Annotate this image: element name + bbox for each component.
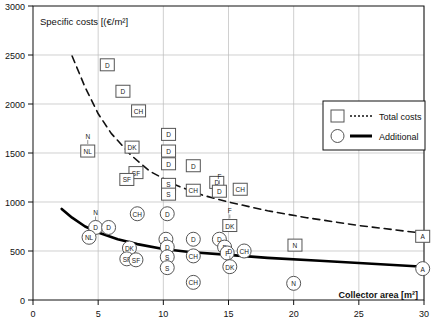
data-point-square[interactable]: NNL <box>81 133 95 158</box>
data-point-circle[interactable]: CH <box>186 249 200 263</box>
data-point-label: S <box>165 254 170 261</box>
data-point-circle[interactable]: CH <box>186 275 200 289</box>
data-point-label: S <box>166 181 171 188</box>
callout-label: D <box>227 248 232 255</box>
callout-label: N <box>85 133 90 140</box>
data-point-label: CH <box>239 248 249 255</box>
y-axis-tick-label: 0 <box>20 296 25 306</box>
chart-container: 051015202530050010001500200025003000 DDC… <box>0 0 445 332</box>
legend-entry-label: Additional <box>379 132 419 142</box>
x-axis-tick-label: 25 <box>354 309 364 319</box>
data-point-circle[interactable]: SF <box>129 253 143 267</box>
data-point-label: D <box>166 131 171 138</box>
data-point-label: D <box>191 236 196 243</box>
data-point-square[interactable]: FDK <box>223 207 237 232</box>
data-point-label: SF <box>132 257 140 264</box>
data-point-label: CH <box>236 186 246 193</box>
callout-label: F <box>228 207 232 214</box>
y-axis-tick-label: 500 <box>10 247 25 257</box>
x-axis-tick-label: 15 <box>223 309 233 319</box>
data-point-label: CH <box>189 187 199 194</box>
data-point-label: CH <box>134 108 144 115</box>
data-point-label: D <box>93 224 98 231</box>
data-point-label: D <box>106 224 111 231</box>
data-point-square[interactable]: A <box>416 230 430 242</box>
data-point-square[interactable]: N <box>288 239 302 251</box>
data-point-label: DK <box>225 223 235 230</box>
data-point-label: DK <box>225 264 235 271</box>
data-point-label: DK <box>128 144 138 151</box>
data-point-square[interactable]: S <box>162 188 176 200</box>
data-point-label: NL <box>84 148 93 155</box>
y-axis-tick-label: 2500 <box>5 51 25 61</box>
data-point-label: D <box>217 188 222 195</box>
callout-label: F <box>217 173 221 180</box>
x-axis-title: Collector area [m²] <box>338 290 418 300</box>
y-axis-title: Specific costs [(€/m²] <box>40 16 128 27</box>
data-point-circle[interactable]: NL <box>82 230 96 244</box>
data-point-label: CH <box>189 279 199 286</box>
data-point-label: CH <box>189 253 199 260</box>
data-point-square[interactable]: D <box>162 145 176 157</box>
callout-label: N <box>93 209 98 216</box>
x-axis-tick-label: 20 <box>289 309 299 319</box>
legend-square-marker <box>331 110 344 122</box>
data-point-label: N <box>293 242 298 249</box>
x-axis-tick-label: 30 <box>419 309 429 319</box>
data-point-label: D <box>166 148 171 155</box>
x-axis-tick-label: 0 <box>30 309 35 319</box>
axis-tick-labels: 051015202530050010001500200025003000 <box>5 2 429 320</box>
legend-circle-marker <box>331 130 344 143</box>
data-point-circle[interactable]: CH <box>130 207 144 221</box>
data-point-label: SF <box>123 176 131 183</box>
data-point-square[interactable]: D <box>186 160 200 172</box>
data-point-square[interactable]: SF <box>120 173 134 185</box>
data-point-circle[interactable]: A <box>416 262 430 276</box>
data-point-label: D <box>165 211 170 218</box>
data-point-label: CH <box>133 211 143 218</box>
scatter-chart: 051015202530050010001500200025003000 DDC… <box>0 0 445 332</box>
data-point-label: A <box>421 266 426 273</box>
x-axis-tick-label: 5 <box>96 309 101 319</box>
data-point-square[interactable]: D <box>162 128 176 140</box>
y-axis-tick-label: 2000 <box>5 100 25 110</box>
data-point-label: D <box>105 62 110 69</box>
data-point-label: S <box>165 265 170 272</box>
data-point-circle[interactable]: D <box>186 232 200 246</box>
data-point-label: N <box>291 280 296 287</box>
data-point-label: D <box>191 163 196 170</box>
legend: Total costsAdditional <box>323 101 425 150</box>
x-axis-tick-label: 10 <box>158 309 168 319</box>
data-point-label: D <box>166 161 171 168</box>
data-point-circle[interactable]: CH <box>237 244 251 258</box>
data-point-label: A <box>421 233 426 240</box>
legend-entry-label: Total costs <box>379 112 422 122</box>
data-point-label: D <box>121 88 126 95</box>
y-axis-tick-label: 1000 <box>5 198 25 208</box>
data-point-label: NL <box>85 234 94 241</box>
data-point-square[interactable]: DK <box>125 141 139 153</box>
data-point-label: DK <box>125 245 135 252</box>
data-point-circle[interactable]: D <box>160 207 174 221</box>
data-point-label: S <box>166 191 171 198</box>
y-axis-tick-label: 3000 <box>5 2 25 12</box>
data-point-square[interactable]: D <box>116 85 130 97</box>
data-point-square[interactable]: CH <box>186 184 200 196</box>
data-points: DDCHDNNLDKDDDSFSFSDCHSFDCHFDKNACHDNDDNLD… <box>81 59 430 291</box>
data-point-circle[interactable]: S <box>160 261 174 275</box>
data-point-square[interactable]: CH <box>233 183 247 195</box>
data-point-square[interactable]: D <box>100 59 114 71</box>
data-point-square[interactable]: CH <box>132 105 146 117</box>
data-point-square[interactable]: D <box>162 158 176 170</box>
data-point-circle[interactable]: N <box>287 276 301 290</box>
data-point-circle[interactable]: D <box>102 220 116 234</box>
y-axis-tick-label: 1500 <box>5 149 25 159</box>
